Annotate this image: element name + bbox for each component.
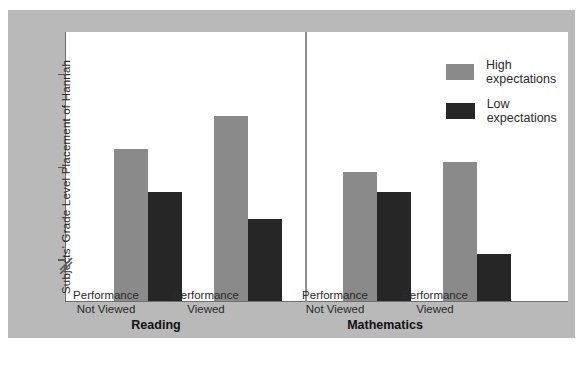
x-group-line1: Performance [141, 288, 271, 302]
axis-break-icon [59, 256, 75, 274]
legend-swatch-high [446, 64, 474, 80]
bar-reading-notviewed-low [148, 192, 182, 302]
x-group-line2: Viewed [141, 302, 271, 316]
x-subject-reading: Reading [36, 318, 276, 332]
x-group-line2: Viewed [370, 302, 500, 316]
legend-item-high: High expectations [446, 58, 568, 86]
y-tick-4 [58, 167, 66, 169]
legend-swatch-low [446, 103, 475, 119]
x-group-math-viewed: Performance Viewed [370, 288, 500, 316]
legend: High expectations Low expectations [446, 58, 568, 136]
x-subject-mathematics: Mathematics [265, 318, 505, 332]
legend-label-high: High expectations [486, 58, 568, 86]
x-group-line1: Performance [370, 288, 500, 302]
bar-reading-viewed-high [214, 116, 248, 301]
legend-label-low: Low expectations [487, 97, 568, 125]
legend-item-low: Low expectations [446, 97, 568, 125]
x-group-reading-viewed: Performance Viewed [141, 288, 271, 316]
plot-area: Subjects' Grade Level Placement of Hanna… [65, 32, 568, 302]
y-tick-5 [58, 74, 66, 76]
bar-math-viewed-high [443, 162, 477, 301]
chart-panel: Subjects' Grade Level Placement of Hanna… [8, 10, 575, 338]
bar-math-notviewed-low [377, 192, 411, 302]
bar-math-notviewed-high [343, 172, 377, 301]
bar-reading-notviewed-high [114, 149, 148, 301]
figure: Subjects' Grade Level Placement of Hanna… [0, 0, 587, 366]
panel-divider [305, 32, 307, 302]
